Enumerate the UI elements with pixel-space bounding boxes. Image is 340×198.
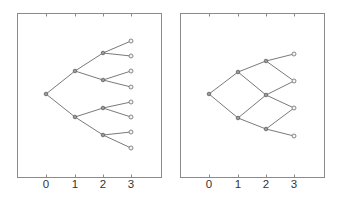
- recombining-lattice-panel: 0123: [181, 14, 325, 191]
- tree-node: [264, 93, 268, 97]
- tree-edge: [209, 94, 238, 118]
- tree-edge: [103, 53, 131, 56]
- tree-edge: [266, 81, 294, 95]
- tree-edge: [103, 71, 131, 80]
- x-tick-label: 3: [291, 178, 297, 190]
- tree-node: [236, 116, 240, 120]
- tree-node: [207, 92, 211, 96]
- x-tick-label: 1: [72, 178, 78, 190]
- tree-edge: [103, 132, 131, 135]
- leaf-node: [292, 106, 296, 110]
- leaf-node: [292, 79, 296, 83]
- tree-node: [264, 59, 268, 63]
- tree-edge: [46, 94, 75, 117]
- tree-node: [236, 70, 240, 74]
- figure-canvas: 0123 0123: [0, 0, 340, 198]
- tree-edge: [266, 129, 294, 136]
- leaf-node: [129, 130, 133, 134]
- x-tick-label: 2: [100, 178, 106, 190]
- tree-edge: [266, 108, 294, 129]
- tree-node: [101, 51, 105, 55]
- tree-node: [101, 133, 105, 137]
- leaf-node: [129, 146, 133, 150]
- x-tick-label: 0: [206, 178, 212, 190]
- x-tick-label: 0: [43, 178, 49, 190]
- plot-frame: [18, 14, 162, 178]
- x-tick-label: 2: [263, 178, 269, 190]
- tree-edge: [75, 71, 103, 80]
- tree-edge: [103, 135, 131, 148]
- tree-edge: [75, 117, 103, 135]
- leaf-node: [292, 52, 296, 56]
- tree-edge: [75, 108, 103, 117]
- tree-edge: [103, 108, 131, 117]
- tree-edge: [238, 118, 266, 129]
- tree-edge: [266, 61, 294, 81]
- tree-node: [73, 69, 77, 73]
- plot-frame: [181, 14, 325, 178]
- leaf-node: [129, 54, 133, 58]
- tree-edge: [46, 71, 75, 94]
- x-tick-label: 3: [128, 178, 134, 190]
- tree-edge: [103, 41, 131, 53]
- tree-node: [101, 106, 105, 110]
- tree-edge: [238, 72, 266, 95]
- tree-edge: [103, 80, 131, 87]
- tree-edge: [209, 72, 238, 94]
- tree-node: [44, 92, 48, 96]
- tree-node: [264, 127, 268, 131]
- tree-edge: [103, 102, 131, 108]
- tree-edge: [75, 53, 103, 71]
- leaf-node: [129, 100, 133, 104]
- leaf-node: [292, 134, 296, 138]
- leaf-node: [129, 69, 133, 73]
- tree-edge: [238, 95, 266, 118]
- tree-node: [73, 115, 77, 119]
- tree-edge: [266, 95, 294, 108]
- tree-edge: [266, 54, 294, 61]
- tree-edge: [238, 61, 266, 72]
- binary-tree-panel: 0123: [18, 14, 162, 191]
- leaf-node: [129, 39, 133, 43]
- leaf-node: [129, 85, 133, 89]
- tree-node: [101, 78, 105, 82]
- leaf-node: [129, 115, 133, 119]
- x-tick-label: 1: [235, 178, 241, 190]
